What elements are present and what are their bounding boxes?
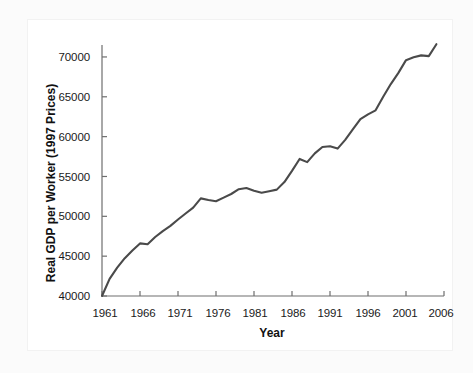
chart-figure: Real GDP per Worker (1997 Prices) Year 4… xyxy=(0,0,473,373)
chart-plot-area xyxy=(0,0,473,373)
gdp-per-worker-line xyxy=(102,44,436,296)
y-tick-marks xyxy=(102,57,107,296)
figure-page: Real GDP per Worker (1997 Prices) Year 4… xyxy=(0,0,473,373)
x-tick-marks xyxy=(102,291,444,296)
